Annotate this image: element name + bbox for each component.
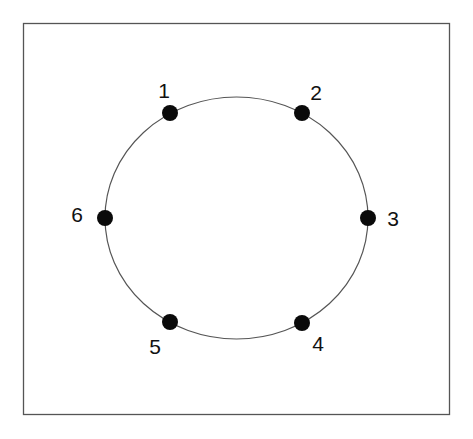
- node-6: [97, 210, 113, 226]
- node-label-4: 4: [312, 332, 324, 355]
- nodes-group: [97, 105, 376, 331]
- labels-group: 123456: [71, 79, 399, 358]
- ring-diagram: 123456: [0, 0, 473, 439]
- node-label-6: 6: [71, 203, 83, 226]
- node-1: [162, 105, 178, 121]
- node-4: [294, 315, 310, 331]
- ring-edge: [105, 97, 368, 339]
- node-3: [360, 210, 376, 226]
- node-label-2: 2: [310, 81, 322, 104]
- diagram-frame: [24, 24, 450, 415]
- node-2: [294, 105, 310, 121]
- node-label-3: 3: [387, 207, 399, 230]
- node-label-1: 1: [158, 79, 170, 102]
- node-label-5: 5: [149, 335, 161, 358]
- node-5: [162, 314, 178, 330]
